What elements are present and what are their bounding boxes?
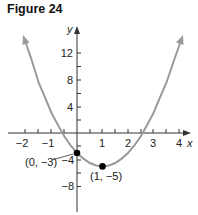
x-tick-label: −2	[16, 137, 29, 149]
x-tick-label: 4	[176, 137, 182, 149]
point-label: (1, −5)	[90, 170, 122, 182]
y-axis	[74, 26, 80, 212]
x-tick-label: 3	[150, 137, 156, 149]
point-label: (0, −3)	[25, 156, 57, 168]
x-tick-label: −1	[42, 137, 55, 149]
y-ticks	[77, 53, 81, 187]
point-0-neg3	[74, 150, 81, 157]
y-axis-label: y	[66, 23, 74, 35]
x-axis-arrow-icon	[183, 130, 191, 136]
x-tick-label: 2	[125, 137, 131, 149]
y-tick-label: 8	[67, 74, 73, 86]
left-arrow-icon	[23, 35, 30, 45]
x-tick-labels: −2 −1 1 2 3 4	[16, 137, 182, 149]
y-tick-label: 12	[61, 47, 73, 59]
point-1-neg5	[99, 163, 106, 170]
right-arrow-icon	[176, 35, 184, 45]
y-axis-arrow-icon	[74, 26, 80, 34]
x-ticks	[25, 129, 179, 133]
x-tick-label: 1	[99, 137, 105, 149]
chart: −2 −1 1 2 3 4 12 8 4 −4 −8 y x (0, −3) (…	[0, 0, 198, 215]
y-tick-label: −8	[61, 180, 74, 192]
x-axis	[8, 130, 191, 136]
y-tick-label: 4	[67, 101, 73, 113]
y-tick-labels: 12 8 4 −4 −8	[61, 47, 74, 192]
x-axis-label: x	[186, 137, 193, 149]
